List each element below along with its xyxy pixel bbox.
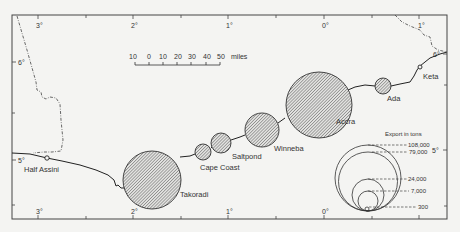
port-label-saltpond: Saltpond	[232, 152, 262, 161]
legend-value-108000: 108,000	[408, 142, 430, 148]
lon-label-bottom-0: 0°	[322, 208, 329, 215]
western-border	[17, 16, 63, 153]
port-label-ada: Ada	[387, 94, 401, 103]
port-circle-ada	[375, 78, 391, 94]
legend-title: Export in tons	[385, 131, 422, 137]
scale-bar: 10 0 10 20 30 40 50 miles	[129, 53, 248, 65]
lon-label-top-1e: 1°	[418, 22, 425, 29]
legend-value-79000: 79,000	[409, 149, 428, 155]
lon-label-bottom-3w: 3°	[36, 208, 43, 215]
export-legend: Export in tons 108,000 79,000 24,000 7,0…	[335, 131, 430, 211]
lon-label-bottom-2w: 2°	[131, 208, 138, 215]
bottom-ticks	[38, 215, 419, 219]
scale-label-50: 50	[217, 53, 225, 60]
eastern-border	[395, 15, 447, 52]
lon-label-top-3w: 3°	[36, 22, 43, 29]
left-ticks	[12, 62, 16, 205]
lon-label-bottom-1w: 1°	[226, 208, 233, 215]
lat-label-left-5n: 5°	[18, 157, 25, 164]
lon-label-top-0: 0°	[322, 22, 329, 29]
port-label-accra: Accra	[336, 117, 356, 126]
legend-circle-24000	[352, 179, 384, 211]
scale-label-20: 20	[174, 53, 182, 60]
legend-circle-79000	[339, 152, 398, 211]
lat-label-left-6n: 6°	[18, 59, 25, 66]
port-label-cape-coast: Cape Coast	[200, 163, 241, 172]
lon-label-top-1w: 1°	[226, 22, 233, 29]
town-marker-keta	[418, 65, 422, 69]
scale-label-10-left: 10	[129, 53, 137, 60]
top-ticks	[38, 15, 419, 19]
legend-value-24000: 24,000	[408, 176, 427, 182]
port-label-keta: Keta	[423, 72, 439, 81]
legend-value-300: 300	[418, 204, 429, 210]
scale-label-10: 10	[159, 53, 167, 60]
legend-circle-7000	[358, 191, 378, 211]
legend-circle-300	[365, 207, 369, 211]
lon-label-top-2w: 2°	[131, 22, 138, 29]
scale-label-30: 30	[188, 53, 196, 60]
town-marker-half-assini	[45, 156, 49, 160]
scale-label-40: 40	[203, 53, 211, 60]
port-circle-saltpond	[211, 133, 231, 153]
scale-unit: miles	[231, 53, 248, 60]
port-label-takoradi: Takoradi	[180, 190, 209, 199]
port-circle-cape-coast	[195, 144, 211, 160]
port-circle-takoradi	[123, 151, 181, 209]
port-circle-winneba	[245, 113, 279, 147]
port-label-winneba: Winneba	[274, 144, 304, 153]
map-frame	[12, 15, 447, 219]
port-circle-accra	[286, 72, 352, 138]
export-map: 3° 2° 1° 0° 1° 3° 2° 1° 0° 6° 5° 6° 5° H…	[0, 0, 460, 232]
right-ticks	[443, 54, 447, 206]
legend-circle-108000	[335, 145, 401, 211]
port-label-half-assini: Half Assini	[24, 165, 59, 174]
lat-label-right-5n: 5°	[432, 147, 439, 154]
scale-label-0: 0	[147, 53, 151, 60]
legend-value-7000: 7,000	[411, 188, 427, 194]
